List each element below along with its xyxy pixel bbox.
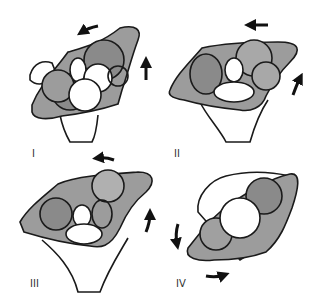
panel-label-III: III bbox=[30, 278, 39, 289]
panel-IV bbox=[187, 172, 297, 260]
panel-label-I: I bbox=[32, 148, 35, 159]
panel-II bbox=[169, 40, 297, 142]
diagram-svg bbox=[0, 0, 318, 302]
panel-III bbox=[20, 170, 152, 292]
panel-label-IV: IV bbox=[176, 278, 186, 289]
panel-I bbox=[30, 27, 139, 142]
panel-label-II: II bbox=[174, 148, 180, 159]
figure-canvas: I II III IV bbox=[0, 0, 318, 302]
